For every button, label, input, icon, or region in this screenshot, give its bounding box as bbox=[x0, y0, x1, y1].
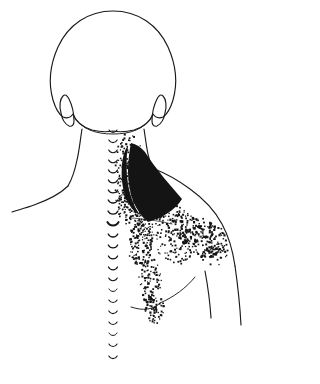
stipple-dot bbox=[193, 227, 195, 229]
stipple-dot bbox=[186, 252, 187, 253]
stipple-dot bbox=[120, 197, 122, 199]
stipple-dot bbox=[148, 257, 149, 258]
stipple-dot bbox=[152, 318, 154, 320]
stipple-dot bbox=[157, 265, 158, 266]
stipple-dot bbox=[162, 312, 163, 313]
stipple-dot bbox=[157, 288, 159, 290]
stipple-dot bbox=[203, 222, 205, 224]
stipple-dot bbox=[187, 213, 188, 214]
stipple-dot bbox=[115, 165, 117, 167]
stipple-dot bbox=[210, 263, 212, 265]
stipple-dot bbox=[223, 238, 224, 239]
stipple-dot bbox=[139, 233, 141, 235]
stipple-dot bbox=[202, 232, 204, 234]
stipple-dot bbox=[187, 248, 188, 249]
stipple-dot bbox=[141, 283, 142, 284]
stipple-dot bbox=[193, 225, 194, 226]
stipple-dot bbox=[125, 223, 126, 224]
stipple-dot bbox=[118, 181, 120, 183]
stipple-dot bbox=[214, 249, 215, 250]
stipple-dot bbox=[180, 260, 182, 262]
stipple-dot bbox=[180, 236, 181, 237]
stipple-dot bbox=[195, 231, 197, 233]
stipple-dot bbox=[133, 136, 135, 138]
stipple-dot bbox=[129, 255, 131, 257]
stipple-dot bbox=[121, 194, 122, 195]
stipple-dot bbox=[148, 295, 150, 297]
stipple-dot bbox=[224, 245, 225, 246]
stipple-dot bbox=[187, 258, 188, 259]
stipple-dot bbox=[166, 223, 168, 225]
stipple-dot bbox=[200, 225, 202, 227]
stipple-dot bbox=[218, 243, 220, 245]
stipple-dot bbox=[120, 213, 121, 214]
stipple-dot bbox=[223, 248, 225, 250]
stipple-dot bbox=[142, 259, 144, 261]
stipple-dot bbox=[208, 241, 210, 243]
stipple-dot bbox=[201, 237, 203, 239]
stipple-dot bbox=[189, 230, 191, 232]
stipple-dot bbox=[126, 219, 128, 221]
stipple-dot bbox=[178, 254, 180, 256]
stipple-dot bbox=[197, 220, 199, 222]
stipple-dot bbox=[160, 246, 161, 247]
stipple-dot bbox=[117, 151, 119, 153]
stipple-dot bbox=[184, 236, 186, 238]
stipple-dot bbox=[116, 191, 117, 192]
stipple-dot bbox=[134, 237, 136, 239]
stipple-dot bbox=[209, 230, 211, 232]
stipple-dot bbox=[125, 217, 126, 218]
stipple-dot bbox=[120, 205, 122, 207]
stipple-dot bbox=[126, 201, 128, 203]
stipple-dot bbox=[221, 235, 222, 236]
stipple-dot bbox=[136, 263, 138, 265]
stipple-dot bbox=[156, 274, 158, 276]
stipple-dot bbox=[160, 273, 161, 274]
stipple-dot bbox=[136, 237, 137, 238]
stipple-dot bbox=[119, 216, 121, 218]
stipple-dot bbox=[193, 234, 195, 236]
stipple-dot bbox=[138, 247, 140, 249]
stipple-dot bbox=[181, 217, 182, 218]
stipple-dot bbox=[132, 257, 134, 259]
stipple-dot bbox=[152, 301, 154, 303]
stipple-dot bbox=[133, 228, 135, 230]
stipple-dot bbox=[150, 278, 152, 280]
stipple-dot bbox=[185, 226, 187, 228]
stipple-dot bbox=[131, 210, 133, 212]
stipple-dot bbox=[176, 219, 177, 220]
stipple-dot bbox=[213, 253, 214, 254]
stipple-dot bbox=[143, 256, 145, 258]
stipple-dot bbox=[217, 248, 218, 249]
stipple-dot bbox=[159, 303, 161, 305]
stipple-dot bbox=[183, 243, 185, 245]
stipple-dot bbox=[210, 246, 212, 248]
stipple-dot bbox=[155, 317, 156, 318]
stipple-dot bbox=[190, 219, 192, 221]
stipple-dot bbox=[129, 137, 131, 139]
stipple-dot bbox=[154, 320, 155, 321]
stipple-dot bbox=[144, 238, 145, 239]
stipple-dot bbox=[210, 235, 212, 237]
stipple-dot bbox=[170, 222, 171, 223]
stipple-dot bbox=[139, 219, 141, 221]
stipple-dot bbox=[179, 210, 181, 212]
stipple-dot bbox=[149, 235, 150, 236]
stipple-dot bbox=[160, 232, 162, 234]
stipple-dot bbox=[198, 225, 200, 227]
stipple-dot bbox=[156, 300, 157, 301]
stipple-dot bbox=[156, 322, 158, 324]
stipple-dot bbox=[195, 218, 197, 220]
stipple-dot bbox=[153, 295, 155, 297]
stipple-dot bbox=[196, 249, 197, 250]
stipple-dot bbox=[199, 223, 200, 224]
stipple-dot bbox=[151, 259, 153, 261]
stipple-dot bbox=[135, 226, 137, 228]
stipple-dot bbox=[145, 260, 147, 262]
stipple-dot bbox=[209, 226, 211, 228]
stipple-dot bbox=[119, 185, 121, 187]
stipple-dot bbox=[136, 234, 137, 235]
stipple-dot bbox=[185, 253, 186, 254]
stipple-dot bbox=[144, 229, 145, 230]
stipple-dot bbox=[142, 239, 143, 240]
